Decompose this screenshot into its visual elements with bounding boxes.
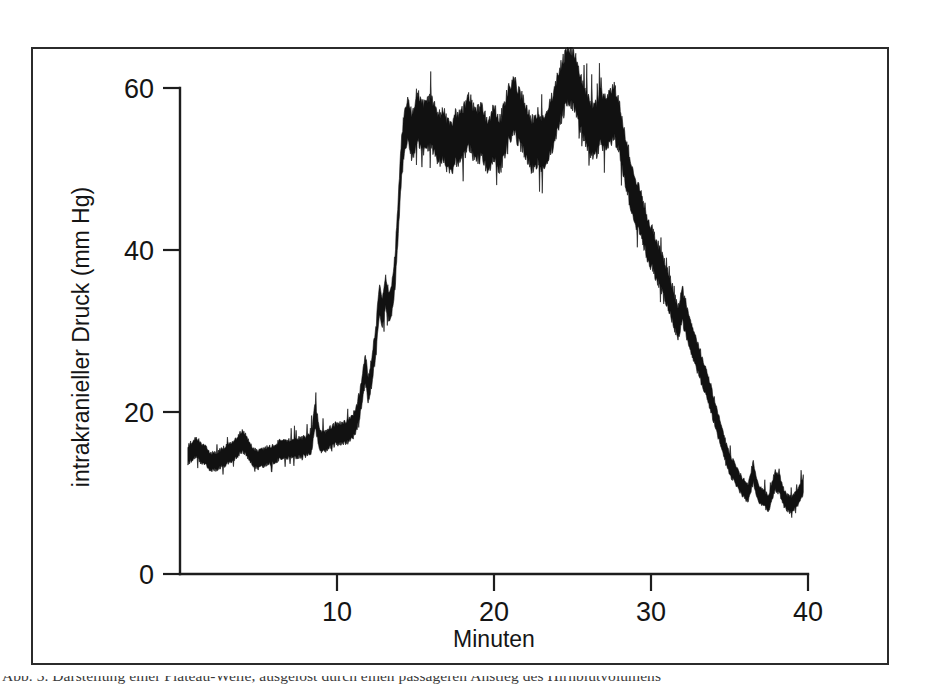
y-tick-label: 60 <box>124 74 154 104</box>
x-tick-label: 10 <box>322 597 352 627</box>
y-tick-label: 0 <box>139 560 154 590</box>
y-tick-group: 0204060 <box>124 74 180 590</box>
x-tick-group: 10203040 <box>322 574 823 627</box>
axis-group <box>180 88 808 574</box>
pressure-trace <box>188 47 803 518</box>
y-tick-label: 40 <box>124 236 154 266</box>
y-tick-label: 20 <box>124 398 154 428</box>
pressure-trace-band <box>188 47 803 518</box>
figure-caption-strip: Abb. 3. Darstellung einer Plateau-Welle,… <box>0 676 926 697</box>
y-axis-title: intrakranieller Druck (mm Hg) <box>68 187 94 487</box>
figure-root: 0204060 10203040 Minuten intrakranieller… <box>0 0 926 697</box>
x-tick-label: 30 <box>636 597 666 627</box>
x-axis-title: Minuten <box>453 626 535 652</box>
x-tick-label: 40 <box>793 597 823 627</box>
figure-caption: Abb. 3. Darstellung einer Plateau-Welle,… <box>2 676 926 685</box>
x-tick-label: 20 <box>479 597 509 627</box>
icp-plateau-wave-chart: 0204060 10203040 Minuten intrakranieller… <box>31 47 889 665</box>
